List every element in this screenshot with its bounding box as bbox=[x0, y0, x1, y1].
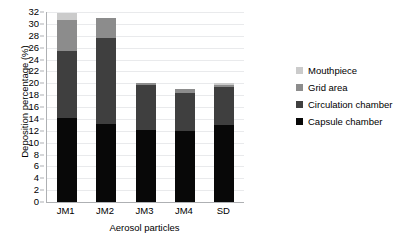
y-axis-tick-mark bbox=[40, 166, 44, 167]
y-axis-tick-label: 6 bbox=[34, 161, 39, 171]
y-axis-tick-mark bbox=[40, 95, 44, 96]
legend-label: Capsule chamber bbox=[308, 116, 382, 127]
bar-segment bbox=[214, 125, 234, 202]
x-axis-title: Aerosol particles bbox=[46, 222, 243, 233]
bar-segment bbox=[57, 20, 77, 50]
y-axis-tick-label: 10 bbox=[28, 138, 39, 148]
x-axis-tick-labels: JM1JM2JM3JM4SD bbox=[46, 205, 243, 219]
legend-item[interactable]: Capsule chamber bbox=[296, 113, 404, 130]
y-axis-tick-mark bbox=[40, 202, 44, 203]
y-axis-tick-labels: 02468101214161820222426283032 bbox=[0, 12, 44, 202]
bar-series-container bbox=[47, 12, 244, 202]
legend-swatch-icon bbox=[296, 84, 303, 91]
bar-group bbox=[214, 12, 234, 202]
bar-segment bbox=[175, 93, 195, 130]
bar-stack bbox=[57, 13, 77, 202]
legend-swatch-icon bbox=[296, 118, 303, 125]
legend-label: Grid area bbox=[308, 82, 348, 93]
bar-segment bbox=[96, 38, 116, 125]
y-axis-tick-mark bbox=[40, 118, 44, 119]
y-axis-tick-label: 28 bbox=[28, 31, 39, 41]
plot-area bbox=[46, 12, 244, 203]
bar-group bbox=[136, 12, 156, 202]
x-axis-tick-label: JM4 bbox=[175, 205, 193, 216]
bar-segment bbox=[57, 51, 77, 118]
legend-item[interactable]: Grid area bbox=[296, 79, 404, 96]
bar-segment bbox=[57, 13, 77, 20]
legend-swatch-icon bbox=[296, 101, 303, 108]
bar-group bbox=[96, 12, 116, 202]
y-axis-tick-label: 24 bbox=[28, 55, 39, 65]
y-axis-tick-label: 14 bbox=[28, 114, 39, 124]
y-axis-tick-mark bbox=[40, 190, 44, 191]
bar-segment bbox=[136, 130, 156, 202]
y-axis-tick-mark bbox=[40, 35, 44, 36]
y-axis-tick-mark bbox=[40, 130, 44, 131]
legend-item[interactable]: Mouthpiece bbox=[296, 62, 404, 79]
y-axis-tick-mark bbox=[40, 142, 44, 143]
y-axis-tick-label: 30 bbox=[28, 19, 39, 29]
y-axis-tick-mark bbox=[40, 71, 44, 72]
bar-group bbox=[57, 12, 77, 202]
legend-item[interactable]: Circulation chamber bbox=[296, 96, 404, 113]
x-axis-tick-label: JM1 bbox=[57, 205, 75, 216]
bar-group bbox=[175, 12, 195, 202]
y-axis-tick-label: 16 bbox=[28, 102, 39, 112]
bar-stack bbox=[214, 83, 234, 202]
y-axis-tick-mark bbox=[40, 47, 44, 48]
y-axis-tick-label: 22 bbox=[28, 66, 39, 76]
y-axis-tick-label: 20 bbox=[28, 78, 39, 88]
y-axis-tick-label: 4 bbox=[34, 173, 39, 183]
y-axis-tick-label: 8 bbox=[34, 150, 39, 160]
y-axis-tick-mark bbox=[40, 154, 44, 155]
bar-segment bbox=[136, 85, 156, 130]
y-axis-tick-mark bbox=[40, 59, 44, 60]
chart-legend: MouthpieceGrid areaCirculation chamberCa… bbox=[296, 62, 404, 130]
y-axis-tick-label: 32 bbox=[28, 7, 39, 17]
legend-swatch-icon bbox=[296, 67, 303, 74]
y-axis-tick-mark bbox=[40, 23, 44, 24]
x-axis-tick-label: JM2 bbox=[96, 205, 114, 216]
deposition-bar-chart: Deposition percentage (%) 02468101214161… bbox=[0, 0, 405, 245]
bar-segment bbox=[57, 118, 77, 202]
legend-label: Circulation chamber bbox=[308, 99, 392, 110]
y-axis-tick-label: 0 bbox=[34, 197, 39, 207]
y-axis-tick-mark bbox=[40, 12, 44, 13]
y-axis-tick-label: 2 bbox=[34, 185, 39, 195]
y-axis-tick-mark bbox=[40, 83, 44, 84]
bar-segment bbox=[96, 124, 116, 202]
bar-stack bbox=[96, 18, 116, 202]
bar-segment bbox=[175, 131, 195, 202]
bar-segment bbox=[96, 18, 116, 38]
y-axis-tick-label: 26 bbox=[28, 43, 39, 53]
y-axis-tick-mark bbox=[40, 107, 44, 108]
x-axis-tick-label: JM3 bbox=[136, 205, 154, 216]
x-axis-tick-label: SD bbox=[217, 205, 230, 216]
bar-stack bbox=[175, 89, 195, 202]
bar-stack bbox=[136, 83, 156, 202]
y-axis-tick-label: 18 bbox=[28, 90, 39, 100]
y-axis-tick-mark bbox=[40, 178, 44, 179]
y-axis-tick-label: 12 bbox=[28, 126, 39, 136]
bar-segment bbox=[214, 87, 234, 124]
legend-label: Mouthpiece bbox=[308, 65, 357, 76]
